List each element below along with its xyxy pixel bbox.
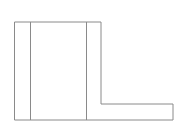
l-shape-diagram xyxy=(0,0,196,126)
l-shape-outline xyxy=(15,22,174,120)
